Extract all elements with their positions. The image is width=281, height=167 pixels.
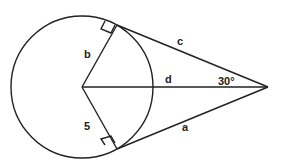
tangent-a <box>117 87 268 149</box>
label-a: a <box>182 121 189 133</box>
label-b: b <box>84 48 91 60</box>
circle-tangent-diagram: b 5 c d 30° a <box>0 0 281 167</box>
label-d: d <box>165 73 172 85</box>
radius-bottom-5 <box>82 87 117 149</box>
label-5: 5 <box>84 120 90 132</box>
tangent-c <box>117 25 268 87</box>
label-c: c <box>177 35 183 47</box>
right-angle-marker-bottom <box>101 136 115 145</box>
label-angle-30: 30° <box>218 75 235 87</box>
